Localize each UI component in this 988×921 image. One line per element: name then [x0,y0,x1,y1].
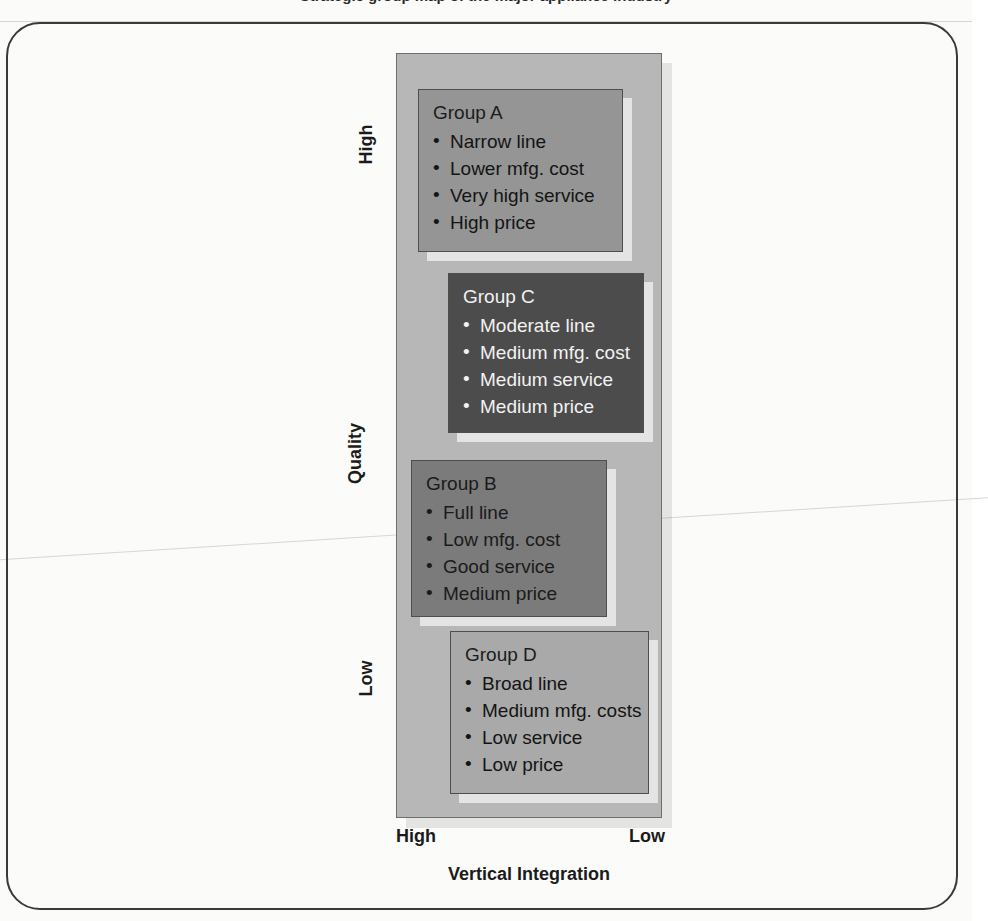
list-item: Low mfg. cost [426,526,592,553]
list-item: Good service [426,553,592,580]
list-item: Broad line [465,670,634,697]
list-item: Very high service [433,182,608,209]
list-item: Full line [426,499,592,526]
list-item: Narrow line [433,128,608,155]
group-box-group-d[interactable]: Group D Broad line Medium mfg. costs Low… [450,631,649,794]
x-axis-title: Vertical Integration [396,864,662,885]
group-box-group-a[interactable]: Group A Narrow line Lower mfg. cost Very… [418,89,623,252]
group-attribute-list: Broad line Medium mfg. costs Low service… [465,670,634,778]
group-title: Group B [426,472,592,496]
x-axis-tick-low: Low [629,826,665,847]
group-attribute-list: Moderate line Medium mfg. cost Medium se… [463,312,629,420]
list-item: Low service [465,724,634,751]
group-box-group-b[interactable]: Group B Full line Low mfg. cost Good ser… [411,460,607,617]
y-axis-tick-low: Low [356,649,377,709]
list-item: Moderate line [463,312,629,339]
group-box-group-c[interactable]: Group C Moderate line Medium mfg. cost M… [448,273,644,433]
y-axis-tick-high: High [356,115,377,175]
list-item: Medium service [463,366,629,393]
group-title: Group C [463,285,629,309]
list-item: Lower mfg. cost [433,155,608,182]
y-axis-title: Quality [345,409,366,499]
group-attribute-list: Narrow line Lower mfg. cost Very high se… [433,128,608,236]
list-item: Medium price [463,393,629,420]
x-axis-tick-high: High [396,826,436,847]
list-item: Medium mfg. costs [465,697,634,724]
group-title: Group D [465,643,634,667]
group-attribute-list: Full line Low mfg. cost Good service Med… [426,499,592,607]
list-item: Low price [465,751,634,778]
list-item: High price [433,209,608,236]
group-title: Group A [433,101,608,125]
list-item: Medium mfg. cost [463,339,629,366]
list-item: Medium price [426,580,592,607]
